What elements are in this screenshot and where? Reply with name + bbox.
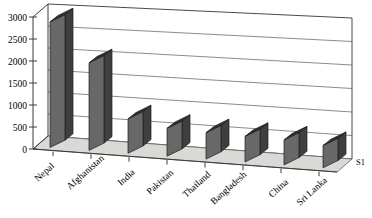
y-tick-label: 1500 <box>8 79 27 89</box>
x-tick-label-pakistan: Pakistan <box>145 167 176 196</box>
y-tick-label: 3000 <box>8 13 27 23</box>
bar-afghanistan[interactable] <box>89 49 112 150</box>
bar-nepal[interactable] <box>50 8 73 147</box>
chart-container: 3000 2500 2000 1500 1000 500 0 <box>0 0 372 218</box>
x-tick-label-bangladesh: Bangladesh <box>209 169 249 206</box>
legend[interactable]: S1 <box>356 157 365 167</box>
y-tick-label: 0 <box>22 145 27 155</box>
y-tick-label: 500 <box>13 123 28 133</box>
x-tick-label-india: India <box>116 166 138 187</box>
legend-series-label: S1 <box>356 157 365 167</box>
y-axis <box>29 4 48 149</box>
x-tick-label-nepal: Nepal <box>33 161 57 184</box>
x-tick-label-afghanistan: Afghanistan <box>65 153 106 192</box>
bar-chart-3d: 3000 2500 2000 1500 1000 500 0 <box>0 0 372 218</box>
y-tick-label: 1000 <box>8 101 27 111</box>
y-tick-label: 2000 <box>8 57 27 67</box>
x-tick-label-china: China <box>267 176 291 199</box>
x-tick-label-thailand: Thailand <box>181 169 213 199</box>
x-tick-label-sri-lanka: Sri Lanka <box>295 175 330 208</box>
y-tick-label: 2500 <box>8 35 27 45</box>
y-axis-labels: 3000 2500 2000 1500 1000 500 0 <box>8 13 27 155</box>
